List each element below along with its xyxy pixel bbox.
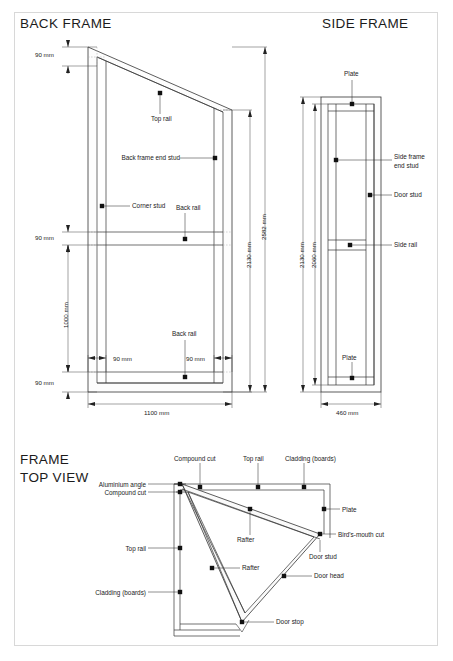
dim-side-height-2130: 2130 mm [298, 242, 305, 268]
label-back-rail-upper: Back rail [176, 204, 201, 213]
dim-side-width-460: 460 mm [336, 409, 358, 416]
label-rafter-upper: Rafter [237, 536, 254, 545]
label-door-stop: Door stop [276, 618, 304, 627]
label-side-rail: Side rail [394, 241, 417, 250]
label-door-head: Door head [314, 572, 344, 581]
label-back-rail-lower: Back rail [172, 330, 197, 339]
dim-back-bottom-90: 90 mm [35, 379, 54, 386]
dim-back-width-90-right: 90 mm [186, 355, 205, 362]
label-compound-cut-top: Compound cut [174, 455, 216, 464]
dim-back-height-2130: 2130 mm [245, 242, 252, 268]
label-cladding-top: Cladding (boards) [285, 455, 336, 464]
dim-back-top-90: 90 mm [35, 51, 54, 58]
label-plate-top: Plate [344, 70, 359, 79]
dim-back-mid-90: 90 mm [35, 234, 54, 241]
label-side-frame-end-stud: Side frame end stud [394, 153, 446, 170]
label-door-stud-side: Door stud [394, 191, 422, 200]
dim-back-width-1100: 1100 mm [144, 409, 169, 416]
label-compound-cut-left: Compound cut [86, 489, 146, 498]
title-side-frame: SIDE FRAME [322, 16, 409, 31]
label-birds-mouth-cut: Bird's-mouth cut [338, 531, 384, 540]
drawing-vectors [0, 0, 453, 661]
label-top-rail-left: Top rail [86, 545, 146, 554]
title-frame-top-view-line1: FRAME [20, 452, 69, 467]
dim-back-height-1000: 1000 mm [62, 302, 69, 328]
label-plate-bottom: Plate [342, 354, 357, 363]
dim-back-width-90-left: 90 mm [113, 355, 132, 362]
label-top-rail-top: Top rail [243, 455, 264, 464]
dim-back-height-2582: 2582 mm [260, 214, 267, 240]
label-top-rail: Top rail [151, 115, 172, 124]
dim-side-height-2060: 2060 mm [310, 242, 317, 268]
label-plate-top-view: Plate [342, 506, 357, 515]
title-frame-top-view-line2: TOP VIEW [20, 470, 89, 485]
label-door-stud-top-view: Door stud [309, 553, 337, 562]
title-back-frame: BACK FRAME [20, 16, 112, 31]
label-cladding-left: Cladding (boards) [76, 589, 146, 598]
label-corner-stud: Corner stud [132, 202, 165, 211]
drawing-sheet: BACK FRAME SIDE FRAME FRAME TOP VIEW 90 … [0, 0, 453, 661]
label-back-frame-end-stud: Back frame end stud [118, 154, 180, 163]
label-rafter-lower: Rafter [242, 564, 259, 573]
